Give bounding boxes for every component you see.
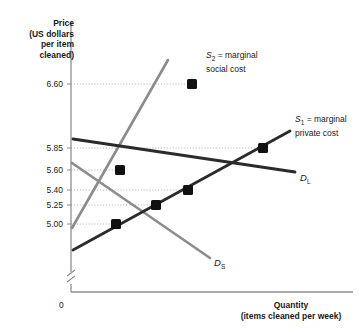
x-axis-title-line-1: Quantity — [274, 300, 308, 310]
y-tick-label-5-40: 5.40 — [29, 185, 63, 195]
y-axis-title-line-1: Price — [53, 18, 74, 28]
curve-label-dl-subscript: L — [307, 178, 311, 185]
x-axis-title-line-2: (items cleaned per week) — [241, 311, 342, 321]
y-axis-title-line-4: cleaned) — [40, 50, 75, 60]
y-axis-title-line-2: (US dollars — [29, 29, 74, 39]
curve-label-s2-subscript: 2 — [212, 55, 216, 62]
data-point-5-40 — [183, 185, 193, 195]
curve-ds-demand-small — [72, 163, 210, 258]
curve-label-ds-subscript: S — [221, 263, 225, 270]
curve-label-ds: DS — [214, 257, 225, 270]
y-axis-title-line-3: per item — [41, 39, 74, 49]
data-point-5-25 — [151, 200, 161, 210]
data-point-6-60 — [187, 79, 197, 89]
curve-label-dl-symbol: D — [300, 172, 307, 183]
curve-label-s2-line2: social cost — [206, 64, 246, 74]
curve-label-dl: DL — [300, 172, 311, 185]
y-axis-title: Price(US dollarsper itemcleaned) — [8, 18, 74, 60]
curve-label-s1-line2: private cost — [295, 128, 338, 138]
data-point-5-85 — [258, 143, 268, 153]
data-point-5-00 — [111, 219, 121, 229]
curve-label-s2-line1: = marginal — [218, 50, 258, 60]
y-tick-label-5-60: 5.60 — [29, 165, 63, 175]
y-tick-label-6-60: 6.60 — [29, 79, 63, 89]
curve-label-s1-subscript: 1 — [301, 119, 305, 126]
curve-label-s2: S2 = marginalsocial cost — [206, 50, 258, 75]
externality-supply-demand-chart: Price(US dollarsper itemcleaned) 6.60 5.… — [0, 0, 363, 332]
data-point-5-60 — [115, 165, 125, 175]
curve-label-ds-symbol: D — [214, 257, 221, 268]
curve-label-s1-line1: = marginal — [307, 114, 347, 124]
origin-label: 0 — [59, 300, 64, 311]
y-tick-label-5-85: 5.85 — [29, 143, 63, 153]
y-tick-label-5-00: 5.00 — [29, 219, 63, 229]
x-axis-title: Quantity(items cleaned per week) — [223, 300, 359, 321]
curve-s1-marginal-private-cost — [73, 131, 290, 250]
y-tick-label-5-25: 5.25 — [29, 200, 63, 210]
curve-label-s1: S1 = marginalprivate cost — [295, 114, 347, 139]
